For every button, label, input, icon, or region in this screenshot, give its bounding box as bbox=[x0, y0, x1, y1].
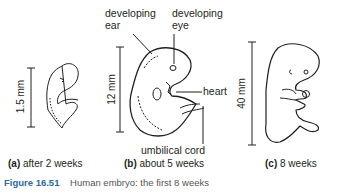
scale-label-a: 1.5 mm bbox=[15, 80, 26, 113]
embryo-figure: 1.5 mm 12 mm 40 mm developing ear develo… bbox=[0, 0, 344, 192]
figure-title: Human embryo: the first 8 weeks bbox=[70, 177, 209, 188]
scale-bar-b bbox=[116, 47, 124, 132]
embryo-8-weeks bbox=[266, 44, 320, 142]
subcaption-c: (c) 8 weeks bbox=[265, 158, 317, 169]
subcaption-c-letter: (c) bbox=[265, 158, 277, 169]
annotation-ear-line2: ear bbox=[105, 20, 120, 31]
annotation-heart: heart bbox=[203, 86, 227, 97]
subcaption-c-text: 8 weeks bbox=[280, 158, 317, 169]
subcaption-a: (a) after 2 weeks bbox=[8, 158, 83, 169]
subcaption-b: (b) about 5 weeks bbox=[124, 158, 204, 169]
embryo-2-weeks bbox=[47, 64, 78, 128]
subcaption-a-letter: (a) bbox=[8, 158, 20, 169]
annotation-ear-line1: developing bbox=[105, 8, 156, 19]
subcaption-b-text: about 5 weeks bbox=[140, 158, 205, 169]
scale-label-b: 12 mm bbox=[106, 74, 117, 105]
annotation-eye-line1: developing bbox=[172, 8, 223, 19]
annotation-umbilical-cord: umbilical cord bbox=[141, 145, 205, 156]
scale-label-c: 40 mm bbox=[236, 78, 247, 109]
subcaption-b-letter: (b) bbox=[124, 158, 137, 169]
subcaption-a-text: after 2 weeks bbox=[23, 158, 82, 169]
embryo-5-weeks bbox=[130, 34, 204, 144]
scale-bar-c bbox=[248, 42, 256, 145]
figure-number: Figure 16.51 bbox=[4, 177, 59, 188]
annotation-eye-line2: eye bbox=[172, 20, 189, 31]
figure-caption: Figure 16.51 Human embryo: the first 8 w… bbox=[4, 177, 209, 188]
scale-bar-a bbox=[27, 68, 35, 127]
